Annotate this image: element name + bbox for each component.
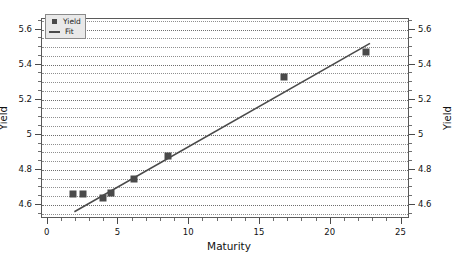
x-ticklabel: 25 [395, 227, 406, 237]
x-ticklabel: 0 [44, 227, 49, 237]
x-tick [47, 218, 48, 224]
x-tick [245, 218, 246, 221]
legend-item-fit[interactable]: Fit [49, 27, 81, 36]
y-tick [409, 204, 415, 205]
x-tick [61, 218, 62, 221]
y-tick [409, 29, 415, 30]
chart-figure: 4.64.855.25.45.6 4.64.855.25.45.6 051015… [0, 0, 458, 265]
legend-line-swatch-icon [49, 31, 60, 33]
y-tick [409, 90, 412, 91]
chart-legend[interactable]: Yield Fit [45, 14, 86, 39]
y-tick [409, 55, 412, 56]
y-ticklabel: 4.6 [18, 199, 32, 209]
y-tick [38, 37, 41, 38]
legend-label-yield: Yield [63, 17, 81, 26]
y-tick [35, 169, 41, 170]
data-point-marker [281, 73, 288, 80]
y-tick [38, 213, 41, 214]
x-ticklabel: 5 [115, 227, 120, 237]
y-tick [38, 178, 41, 179]
data-point-marker [99, 194, 106, 201]
y-tick [38, 116, 41, 117]
y-tick [38, 195, 41, 196]
y-tick [38, 186, 41, 187]
x-tick [146, 218, 147, 221]
y-tick [38, 143, 41, 144]
y-tick [35, 29, 41, 30]
y-tick [409, 64, 415, 65]
y-tick [409, 160, 412, 161]
data-point-marker [70, 191, 77, 198]
x-tick [117, 218, 118, 224]
legend-item-yield[interactable]: Yield [49, 17, 81, 26]
y-tick [38, 55, 41, 56]
x-tick [386, 218, 387, 221]
x-tick [174, 218, 175, 221]
y-tick [38, 160, 41, 161]
data-point-marker [164, 152, 171, 159]
y-tick [38, 46, 41, 47]
y-ticklabel: 4.8 [18, 164, 32, 174]
x-tick [89, 218, 90, 221]
x-tick [273, 218, 274, 221]
x-tick [160, 218, 161, 221]
y-tick [409, 37, 412, 38]
y-ticklabel: 5.4 [418, 59, 432, 69]
y-tick [38, 151, 41, 152]
y-tick [409, 99, 415, 100]
y-tick [38, 20, 41, 21]
legend-marker-swatch-icon [52, 19, 57, 24]
y-tick [409, 107, 412, 108]
data-markers [42, 19, 408, 217]
x-tick [259, 218, 260, 224]
y-ticklabel: 4.6 [418, 199, 432, 209]
y-tick [409, 151, 412, 152]
y-ticklabel: 5.4 [18, 59, 32, 69]
x-tick [287, 218, 288, 221]
x-ticklabel: 15 [254, 227, 265, 237]
y-tick [35, 99, 41, 100]
x-tick [330, 218, 331, 224]
y-tick [409, 20, 412, 21]
x-tick [217, 218, 218, 221]
x-tick [202, 218, 203, 221]
y-tick [38, 90, 41, 91]
y-ticklabel: 4.8 [418, 164, 432, 174]
x-tick [316, 218, 317, 221]
x-tick [188, 218, 189, 224]
y-tick [409, 125, 412, 126]
y-tick [35, 64, 41, 65]
y-ticklabel: 5.2 [418, 94, 432, 104]
y-tick [38, 81, 41, 82]
y-tick [409, 72, 412, 73]
data-point-marker [108, 189, 115, 196]
y-ticklabel: 5.6 [418, 24, 432, 34]
y-axis-title-right: Yield [442, 106, 453, 130]
x-ticklabel: 10 [183, 227, 194, 237]
x-tick [103, 218, 104, 221]
y-tick [409, 178, 412, 179]
y-tick [409, 134, 415, 135]
y-tick [409, 116, 412, 117]
y-ticklabel: 5 [418, 129, 423, 139]
y-tick [409, 195, 412, 196]
data-point-marker [80, 191, 87, 198]
x-tick [75, 218, 76, 221]
y-ticklabel: 5 [27, 129, 32, 139]
y-tick [409, 186, 412, 187]
x-tick [372, 218, 373, 221]
data-point-marker [363, 49, 370, 56]
y-tick [35, 204, 41, 205]
y-tick [409, 81, 412, 82]
x-tick [132, 218, 133, 221]
y-tick [409, 213, 412, 214]
x-axis-title: Maturity [207, 240, 251, 252]
x-tick [358, 218, 359, 221]
y-tick [35, 134, 41, 135]
y-tick [409, 46, 412, 47]
x-tick [231, 218, 232, 221]
x-tick [401, 218, 402, 224]
y-tick [409, 143, 412, 144]
plot-area [41, 18, 409, 218]
y-tick [38, 107, 41, 108]
